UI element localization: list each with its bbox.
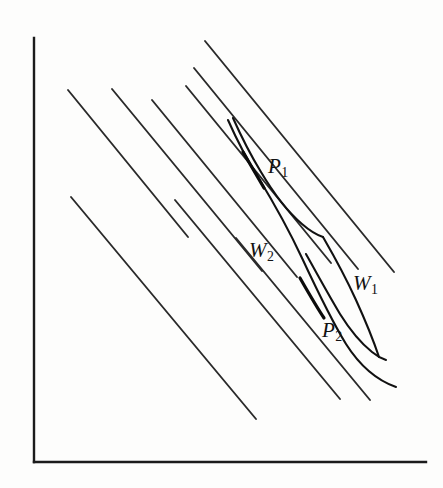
label-w2-base: W <box>249 238 267 262</box>
label-p2-sub: 2 <box>335 329 342 344</box>
label-p2: P2 <box>322 320 342 344</box>
tangency-diagram-figure: P1 P2 W1 W2 <box>0 0 443 488</box>
label-w1: W1 <box>353 273 378 297</box>
label-w2: W2 <box>249 240 274 264</box>
price-line-4 <box>186 86 331 263</box>
diagram-canvas <box>0 0 443 488</box>
label-p2-base: P <box>322 318 335 342</box>
label-p1-base: P <box>268 154 281 178</box>
label-w2-sub: 2 <box>267 249 274 264</box>
price-lines-group <box>68 41 394 419</box>
label-w1-base: W <box>353 271 371 295</box>
label-p1-sub: 1 <box>281 165 288 180</box>
label-w1-sub: 1 <box>371 282 378 297</box>
label-p1: P1 <box>268 156 288 180</box>
axes-group <box>34 38 426 462</box>
